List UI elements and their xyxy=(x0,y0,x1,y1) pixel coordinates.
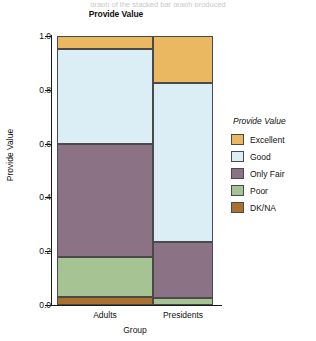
y-axis-title: Provide Value xyxy=(5,100,15,210)
bar-presidents[interactable] xyxy=(153,36,213,305)
y-tick-label: 0.8 xyxy=(9,85,51,95)
y-tick-label: 0.4 xyxy=(9,192,51,202)
legend-items: ExcellentGoodOnly FairPoorDK/NA xyxy=(231,131,316,216)
bar-segment-dk-na[interactable] xyxy=(57,297,153,305)
bar-segment-poor[interactable] xyxy=(57,257,153,297)
x-axis-title: Group xyxy=(40,325,230,335)
legend-item-only-fair[interactable]: Only Fair xyxy=(231,165,316,182)
legend: Provide Value ExcellentGoodOnly FairPoor… xyxy=(231,116,316,216)
legend-label: Good xyxy=(250,152,271,162)
y-tick-label: 1.0 xyxy=(9,31,51,41)
legend-label: Excellent xyxy=(250,135,285,145)
legend-label: Only Fair xyxy=(250,169,284,179)
legend-item-dk-na[interactable]: DK/NA xyxy=(231,199,316,216)
bar-segment-excellent[interactable] xyxy=(57,36,153,49)
plot-area xyxy=(57,36,213,305)
bar-segment-poor[interactable] xyxy=(153,298,213,305)
y-tick-label: 0.0 xyxy=(9,300,51,310)
legend-swatch-icon xyxy=(231,185,244,196)
legend-item-poor[interactable]: Poor xyxy=(231,182,316,199)
bar-segment-good[interactable] xyxy=(57,49,153,143)
y-axis-line xyxy=(51,35,52,306)
y-tick-label: 0.2 xyxy=(9,246,51,256)
legend-swatch-icon xyxy=(231,202,244,213)
bar-segment-only-fair[interactable] xyxy=(57,144,153,257)
legend-swatch-icon xyxy=(231,134,244,145)
legend-item-good[interactable]: Good xyxy=(231,148,316,165)
x-tick-label-presidents: Presidents xyxy=(153,310,213,320)
x-tick-label-adults: Adults xyxy=(57,310,153,320)
legend-swatch-icon xyxy=(231,168,244,179)
stacked-bars xyxy=(57,36,213,305)
top-cutoff-caption: graph of the stacked bar graph produced xyxy=(0,0,316,7)
legend-item-excellent[interactable]: Excellent xyxy=(231,131,316,148)
y-tick-label: 0.6 xyxy=(9,139,51,149)
bar-segment-excellent[interactable] xyxy=(153,36,213,83)
legend-label: Poor xyxy=(250,186,268,196)
legend-label: DK/NA xyxy=(250,203,276,213)
x-axis-line xyxy=(51,305,222,306)
chart-title: Provide Value xyxy=(0,9,232,19)
legend-title: Provide Value xyxy=(231,116,316,126)
bar-segment-good[interactable] xyxy=(153,83,213,242)
legend-swatch-icon xyxy=(231,151,244,162)
bar-segment-only-fair[interactable] xyxy=(153,242,213,298)
bar-adults[interactable] xyxy=(57,36,153,305)
